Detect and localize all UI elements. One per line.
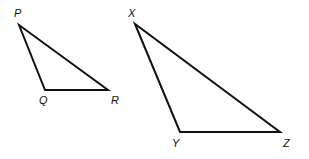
vertex-label-r: R xyxy=(111,94,119,106)
triangle-xyz xyxy=(135,24,280,132)
triangle-pqr xyxy=(19,25,108,90)
vertex-label-q: Q xyxy=(39,94,48,106)
vertex-label-z: Z xyxy=(282,137,291,149)
vertex-label-x: X xyxy=(127,7,136,19)
triangles-svg: P Q R X Y Z xyxy=(0,0,309,159)
vertex-label-p: P xyxy=(14,7,22,19)
vertex-label-y: Y xyxy=(172,137,180,149)
diagram-canvas: P Q R X Y Z xyxy=(0,0,309,159)
